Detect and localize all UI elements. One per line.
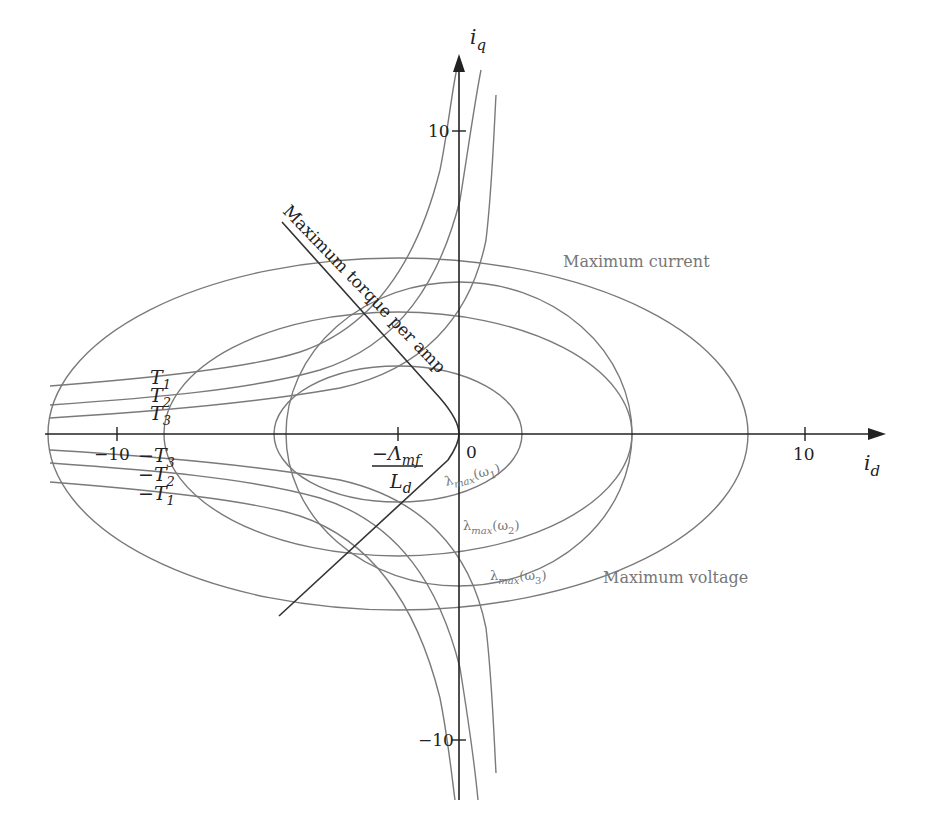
torque-curve-neg-t2 <box>50 463 478 800</box>
max-current-label: Maximum current <box>563 252 710 271</box>
lambda-fraction: −Λmf Ld <box>372 442 423 496</box>
iq-axis-label: iq <box>470 25 486 54</box>
id-axis-label: id <box>864 451 880 480</box>
torque-labels-negative: −T3 −T2 −T1 <box>138 444 175 508</box>
x-tick-label-neg10: −10 <box>94 444 130 464</box>
lambda-max-omega2: λmax(ω2) <box>463 518 519 536</box>
origin-label: 0 <box>466 442 477 462</box>
svg-text:Ld: Ld <box>389 470 412 496</box>
lambda-max-omega3: λmax(ω3) <box>490 568 546 586</box>
id-axis-arrow-icon <box>868 428 886 440</box>
iq-axis-arrow-icon <box>453 54 465 72</box>
y-tick-label-neg10: −10 <box>418 730 454 750</box>
svg-text:−Λmf: −Λmf <box>372 442 423 468</box>
torque-curve-neg-t3 <box>50 450 496 773</box>
max-voltage-label: Maximum voltage <box>603 568 748 587</box>
pmsm-operating-diagram: id iq −10 10 10 −10 0 −Λmf Ld Maximum to… <box>0 0 926 837</box>
y-tick-label-10: 10 <box>428 121 450 141</box>
x-tick-label-10: 10 <box>793 444 815 464</box>
lambda-max-omega1: λmax(ω1) <box>443 461 502 492</box>
